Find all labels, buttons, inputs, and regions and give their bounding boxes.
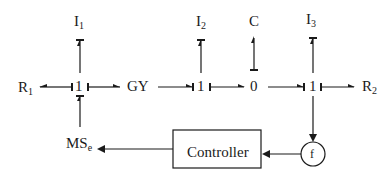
gyrator-label: GY [127,78,149,94]
bond-1c-r2 [321,83,355,91]
signal-controller-mse [97,145,173,153]
bond-1b-i2 [197,39,205,73]
junction-1a: 1 [75,78,83,94]
bond-1c-i3 [309,37,317,73]
junction-1c: 1 [309,78,317,94]
bond-1b-0 [210,83,245,91]
signal-1c-sensor [309,96,317,142]
bond-mse-1a [76,95,84,127]
sensor-label: f [310,147,314,161]
i2-label: I2 [196,13,206,31]
junction-0: 0 [250,78,258,94]
bond-gy-1b [158,83,193,91]
controller-label: Controller [187,144,249,160]
i1-label: I1 [74,13,84,31]
c-label: C [249,13,259,29]
bond-0-c [250,36,258,70]
bond-gy-1a [88,83,120,91]
junction-1b: 1 [197,78,205,94]
bond-graph-diagram: R1 I1 1 GY I2 1 C 0 I3 1 R2 MSe [0,0,392,170]
flow-sensor: f [301,142,325,166]
controller-block: Controller [173,130,261,168]
bond-0-1c [268,83,304,91]
mse-label: MSe [66,135,93,153]
bond-1a-i1 [76,39,84,73]
r2-label: R2 [362,78,377,96]
i3-label: I3 [306,11,316,29]
signal-sensor-controller [262,150,301,158]
r1-label: R1 [18,79,33,97]
bond-1a-r1 [39,83,72,91]
